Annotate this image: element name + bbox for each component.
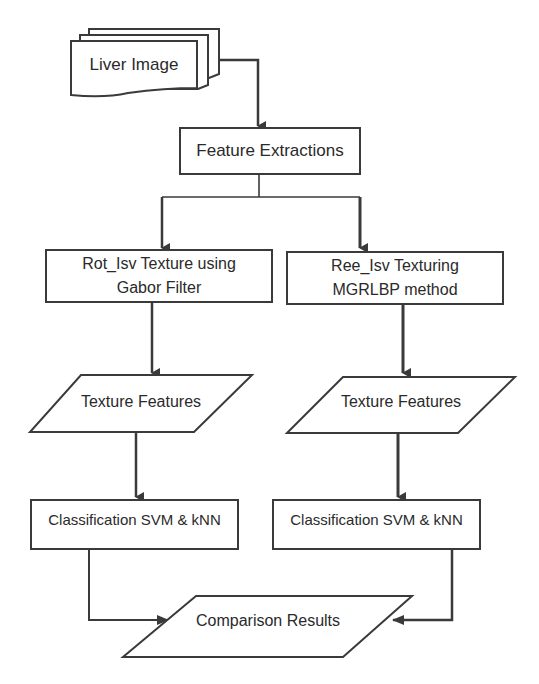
liver-image-label: Liver Image (71, 53, 197, 77)
ree-isv-label-line1: Ree_Isv Texturing (287, 254, 503, 278)
feature-extractions-label: Feature Extractions (180, 139, 360, 163)
rot-isv-label-line1: Rot_Isv Texture using (46, 252, 272, 276)
right-texture-features-label: Texture Features (301, 390, 501, 414)
left-classification-label: Classification SVM & kNN (31, 508, 238, 532)
edge-liver-to-extraction (219, 60, 258, 126)
ree-isv-label-line2: MGRLBP method (287, 278, 503, 302)
right-classification-label: Classification SVM & kNN (273, 508, 480, 532)
flowchart-canvas (0, 0, 539, 684)
comparison-results-label: Comparison Results (168, 609, 368, 633)
rot-isv-label-line2: Gabor Filter (46, 276, 272, 300)
left-texture-features-label: Texture Features (41, 390, 241, 414)
